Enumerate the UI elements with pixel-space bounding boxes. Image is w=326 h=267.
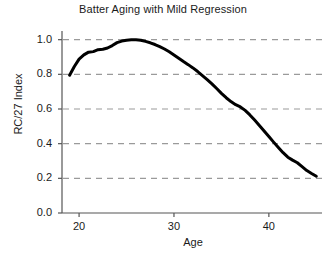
y-tick-label: 0.0 — [18, 206, 52, 218]
gridlines-group — [63, 40, 322, 179]
chart-figure: Batter Aging with Mild Regression 0.00.2… — [0, 0, 326, 267]
data-series-line — [70, 40, 317, 177]
x-tick-label: 30 — [154, 220, 194, 232]
y-tick-label: 0.2 — [18, 171, 52, 183]
x-tick-label: 40 — [249, 220, 289, 232]
ticks-group — [58, 40, 269, 217]
y-axis-label: RC/27 Index — [12, 54, 24, 154]
y-tick-label: 1.0 — [18, 33, 52, 45]
x-tick-label: 20 — [59, 220, 99, 232]
x-axis-label: Age — [62, 236, 324, 248]
axes-group — [62, 31, 322, 213]
